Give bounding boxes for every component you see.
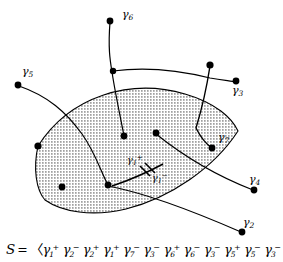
shaded-region [36, 88, 238, 213]
equation-term-2: γ2− [63, 242, 82, 257]
term-superscript: + [93, 243, 100, 252]
dot-inner-c [105, 182, 112, 189]
dot-g3-top [206, 61, 213, 68]
equation-term-4: γ1+ [103, 242, 122, 257]
term-superscript: − [194, 243, 201, 252]
equation-term-5: γ7− [123, 242, 142, 257]
label-gamma-4: γ4 [249, 174, 260, 185]
equation-term-11: γ5− [244, 242, 263, 257]
dot-g7-end [209, 145, 216, 152]
dot-g4-end [251, 187, 258, 194]
equation-term-12: γ3− [264, 242, 283, 257]
label-gamma-2: γ2 [243, 217, 254, 228]
dot-region-left [34, 142, 41, 149]
shaded-region-group [36, 88, 238, 213]
label-gamma-7: γ7 [218, 132, 229, 143]
term-superscript: − [254, 243, 261, 252]
dot-g6-top [107, 18, 114, 25]
label-gamma-6: γ6 [122, 9, 133, 20]
equation-open-bracket: 〈 [30, 241, 43, 257]
dot-inner-d [59, 184, 66, 191]
figure-root: γ6 γ5 γ3 γ7 γ4 γ2 γ1+ γ1− S=〈γ1+γ2−γ2+γ1… [0, 0, 283, 262]
term-superscript: − [73, 243, 80, 252]
equation-terms: γ1+γ2−γ2+γ1+γ7−γ3−γ6+γ6−γ3−γ5+γ5−γ3−γ4+γ… [43, 242, 283, 257]
label-gamma-1-plus: γ1+ [127, 155, 143, 165]
dot-inner-a [121, 133, 128, 140]
label-gamma-5: γ5 [22, 66, 33, 77]
equation-term-8: γ6− [184, 242, 203, 257]
term-superscript: + [53, 243, 60, 252]
dot-g6-mid [110, 68, 116, 74]
equation-term-7: γ6+ [164, 242, 183, 257]
term-superscript: − [153, 243, 160, 252]
term-superscript: − [133, 243, 140, 252]
dot-g2-end [239, 229, 246, 236]
term-superscript: + [173, 243, 180, 252]
topology-diagram [0, 0, 283, 262]
term-superscript: + [234, 243, 241, 252]
label-gamma-1-minus: γ1− [152, 173, 168, 183]
equation-term-6: γ3− [144, 242, 163, 257]
equation-term-9: γ3− [204, 242, 223, 257]
term-superscript: + [113, 243, 120, 252]
equation-lhs: S [6, 241, 15, 257]
equation-line: S=〈γ1+γ2−γ2+γ1+γ7−γ3−γ6+γ6−γ3−γ5+γ5−γ3−γ… [6, 238, 283, 258]
equation-term-10: γ5+ [224, 242, 243, 257]
curve-gamma-3 [113, 69, 236, 82]
equation-term-1: γ1+ [43, 242, 62, 257]
dot-g5-left [15, 82, 22, 89]
term-superscript: − [274, 243, 281, 252]
equation-relation: = [15, 242, 29, 257]
term-superscript: − [214, 243, 221, 252]
label-gamma-3: γ3 [232, 85, 243, 96]
dot-inner-b [153, 130, 160, 137]
equation-term-3: γ2+ [83, 242, 102, 257]
